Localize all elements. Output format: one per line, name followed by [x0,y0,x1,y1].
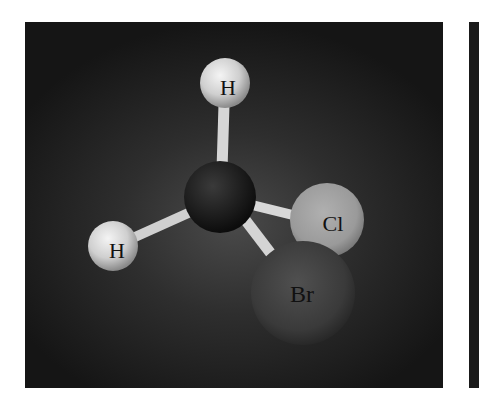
bond-c-h-top [222,105,224,170]
hydrogen-label-top: H [220,75,236,100]
chlorine-label: Cl [323,211,344,236]
hydrogen-label-left: H [109,238,125,263]
bond-c-h-left [135,210,195,237]
bromine-label: Br [290,281,314,307]
carbon-atom [184,161,256,233]
